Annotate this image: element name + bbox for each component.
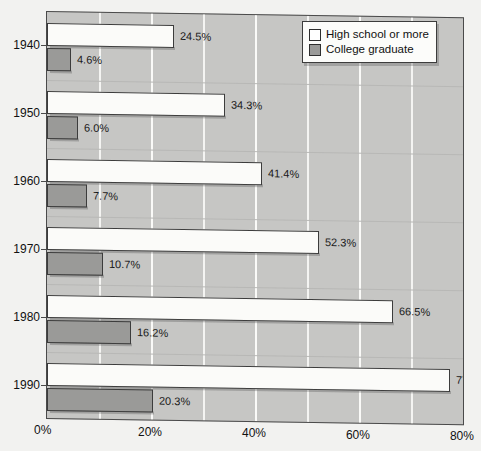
bar-1950-high-school	[47, 91, 225, 117]
x-axis-tick-label-40pct: 40%	[242, 427, 266, 439]
legend-swatch-high-school-icon	[309, 29, 321, 41]
bar-value-label-1950-high-school: 34.3%	[231, 99, 262, 111]
y-axis-tick-label-1990: 1990	[2, 379, 40, 391]
bar-1980-college-graduate	[47, 320, 131, 344]
bar-1960-high-school	[47, 159, 262, 185]
y-axis-tick-mark-1940	[41, 45, 46, 46]
bar-1990-college-graduate	[47, 388, 153, 413]
bar-value-label-1970-college-graduate: 10.7%	[109, 258, 140, 270]
bar-chart: 24.5%4.6%34.3%6.0%41.4%7.7%52.3%10.7%66.…	[0, 0, 481, 451]
bar-value-label-1990-college-graduate: 20.3%	[159, 395, 190, 407]
bar-1990-high-school	[47, 363, 450, 392]
x-axis-tick-label-0pct: 0%	[34, 424, 51, 436]
bar-value-label-1950-college-graduate: 6.0%	[84, 122, 109, 134]
legend-label-college-graduate: College graduate	[326, 44, 414, 56]
bar-1980-high-school	[47, 295, 393, 323]
bar-1970-high-school	[47, 227, 319, 254]
bar-value-label-1980-college-graduate: 16.2%	[137, 327, 168, 339]
y-axis-tick-label-1950: 1950	[2, 107, 40, 119]
y-axis-tick-mark-1990	[41, 385, 46, 386]
bar-value-label-1940-high-school: 24.5%	[180, 30, 211, 42]
y-axis-tick-mark-1960	[41, 181, 46, 182]
bar-1970-college-graduate	[47, 252, 103, 276]
bar-value-label-1990-high-school: 77.6%	[456, 374, 464, 386]
gridline-80	[463, 18, 464, 424]
bar-value-label-1960-college-graduate: 7.7%	[93, 190, 118, 202]
y-axis-tick-label-1960: 1960	[2, 175, 40, 187]
y-axis-tick-label-1940: 1940	[2, 39, 40, 51]
bar-1940-college-graduate	[47, 48, 71, 71]
x-axis-tick-label-60pct: 60%	[346, 429, 370, 441]
y-axis-tick-mark-1980	[41, 317, 46, 318]
y-axis-tick-mark-1970	[41, 249, 46, 250]
legend-item-college-graduate: College graduate	[309, 42, 429, 57]
bar-1960-college-graduate	[47, 184, 87, 208]
legend-swatch-college-graduate-icon	[309, 44, 321, 56]
y-axis-tick-label-1970: 1970	[2, 243, 40, 255]
y-axis-tick-mark-1950	[41, 113, 46, 114]
x-axis-tick-label-20pct: 20%	[138, 426, 162, 438]
y-axis-tick-label-1980: 1980	[2, 311, 40, 323]
chart-legend: High school or more College graduate	[302, 21, 437, 63]
gridline-30	[203, 14, 205, 420]
gridline-50	[307, 16, 309, 422]
bar-value-label-1980-high-school: 66.5%	[399, 306, 430, 318]
legend-label-high-school: High school or more	[326, 29, 429, 41]
bar-value-label-1940-college-graduate: 4.6%	[77, 54, 102, 66]
legend-item-high-school: High school or more	[309, 27, 429, 42]
bar-1940-high-school	[47, 23, 174, 48]
x-axis-tick-label-80pct: 80%	[450, 430, 474, 442]
bar-1950-college-graduate	[47, 116, 78, 139]
bar-value-label-1970-high-school: 52.3%	[325, 236, 356, 248]
bar-value-label-1960-high-school: 41.4%	[268, 168, 299, 180]
plot-area: 24.5%4.6%34.3%6.0%41.4%7.7%52.3%10.7%66.…	[46, 11, 464, 425]
